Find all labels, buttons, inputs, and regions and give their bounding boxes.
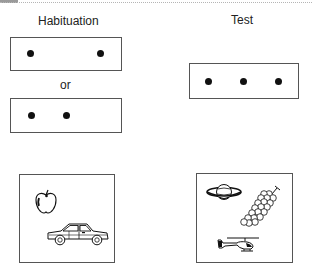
test-dot-display (189, 63, 299, 99)
dot (28, 112, 35, 119)
habituation-heading: Habituation (38, 14, 99, 28)
habituation-picture-display (19, 174, 115, 263)
top-dotted-rule (0, 2, 312, 3)
dot (205, 78, 212, 85)
car-icon (45, 218, 111, 247)
dot (63, 112, 70, 119)
test-picture-display (196, 173, 293, 263)
test-heading: Test (231, 13, 253, 27)
grapes-icon (239, 185, 285, 227)
planet-icon (205, 181, 243, 203)
habituation-dot-display-wide (10, 37, 122, 71)
helicopter-icon (217, 235, 261, 252)
habituation-dot-display-close (10, 98, 122, 133)
dot (240, 78, 247, 85)
apple-icon (34, 189, 58, 215)
dot (275, 78, 282, 85)
or-separator: or (60, 78, 71, 92)
dot (27, 50, 34, 57)
dot (97, 50, 104, 57)
